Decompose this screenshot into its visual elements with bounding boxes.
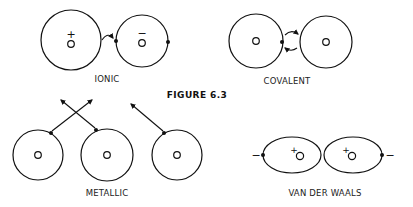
vdw-atom-right-shell xyxy=(324,137,382,173)
ionic-transferred-electron xyxy=(114,39,118,43)
covalent-atom-right-shell xyxy=(300,16,352,68)
ionic-panel: + − IONIC xyxy=(41,10,170,84)
metallic-free-electron-arrow-3 xyxy=(131,104,163,131)
covalent-share-arrow-left xyxy=(285,48,297,50)
vdw-right-electron xyxy=(380,153,384,157)
ionic-negative-charge: − xyxy=(137,27,146,40)
ionic-atom-right-shell xyxy=(116,15,168,67)
metallic-free-electron-arrow-1 xyxy=(52,100,92,131)
covalent-shared-electron xyxy=(280,40,284,44)
metallic-atom-1-nucleus xyxy=(35,152,42,159)
metallic-electron-2 xyxy=(94,128,98,132)
covalent-atom-left-shell xyxy=(229,14,283,68)
ionic-atom-left-nucleus xyxy=(68,41,75,48)
metallic-label: METALLIC xyxy=(86,188,129,198)
van-der-waals-label: VAN DER WAALS xyxy=(288,188,361,198)
ionic-outer-electron xyxy=(166,40,170,44)
covalent-panel: COVALENT xyxy=(229,14,352,86)
ionic-atom-right-nucleus xyxy=(139,40,146,47)
metallic-atom-3-shell xyxy=(152,130,202,180)
metallic-electron-1 xyxy=(49,131,53,135)
vdw-right-pole: − xyxy=(385,149,394,162)
metallic-panel: METALLIC xyxy=(13,100,202,198)
vdw-right-nucleus-charge: + xyxy=(342,145,350,155)
vdw-left-pole: − xyxy=(251,149,260,162)
metallic-free-electron-arrow-2 xyxy=(61,100,95,128)
vdw-atom-left-shell xyxy=(263,137,321,173)
covalent-share-arrow-right xyxy=(285,32,298,35)
vdw-left-nucleus-charge: + xyxy=(290,145,298,155)
ionic-electron-transfer-arrow xyxy=(102,35,113,40)
covalent-label: COVALENT xyxy=(264,76,311,86)
metallic-atom-2-nucleus xyxy=(104,152,111,159)
bonding-types-figure: + − IONIC COVALENT FIGURE 6.3 ME xyxy=(0,0,413,207)
covalent-atom-right-nucleus xyxy=(323,39,330,46)
figure-title: FIGURE 6.3 xyxy=(167,90,227,100)
ionic-label: IONIC xyxy=(95,74,120,84)
van-der-waals-panel: + − + − VAN DER WAALS xyxy=(251,137,394,198)
metallic-atom-3-nucleus xyxy=(174,152,181,159)
metallic-atom-2-shell xyxy=(81,129,133,181)
metallic-atom-1-shell xyxy=(13,130,63,180)
ionic-positive-charge: + xyxy=(66,28,75,41)
covalent-atom-left-nucleus xyxy=(253,38,260,45)
metallic-electron-3 xyxy=(162,131,166,135)
vdw-left-electron xyxy=(261,153,265,157)
